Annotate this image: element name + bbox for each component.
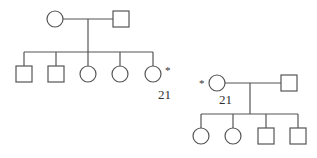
male-child-square: [48, 66, 64, 82]
female-child-circle: [193, 128, 209, 144]
female-child-circle-proband: [145, 66, 161, 82]
female-child-circle: [80, 66, 96, 82]
female-parent-circle-proband: [209, 75, 225, 91]
male-child-square: [290, 128, 306, 144]
proband-marker: *: [199, 78, 205, 89]
proband-marker: *: [165, 65, 171, 76]
female-child-circle: [225, 128, 241, 144]
chromosome-label: 21: [158, 88, 171, 101]
female-parent-circle: [47, 11, 63, 27]
male-parent-square: [281, 75, 297, 91]
pedigree-diagram: [0, 0, 317, 158]
chromosome-label: 21: [219, 93, 232, 106]
male-child-square: [16, 66, 32, 82]
pedigree-2: [193, 75, 306, 144]
male-child-square: [258, 128, 274, 144]
pedigree-1: [16, 11, 161, 82]
female-child-circle: [112, 66, 128, 82]
male-parent-square: [113, 11, 129, 27]
